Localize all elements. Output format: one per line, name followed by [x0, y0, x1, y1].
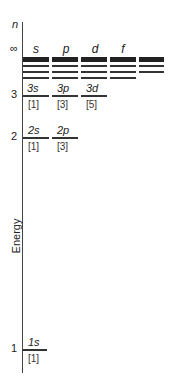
band-f	[110, 57, 136, 62]
degeneracy-1s: [1]	[28, 353, 39, 364]
degeneracy-2s: [1]	[28, 141, 39, 152]
level-line	[110, 65, 136, 67]
level-line-n4-f	[110, 77, 136, 79]
level-line-3p	[52, 95, 78, 97]
degeneracy-3p: [3]	[57, 99, 68, 110]
level-line	[110, 71, 136, 73]
level-line	[81, 71, 107, 73]
level-line	[139, 65, 164, 67]
column-p: p	[55, 42, 77, 56]
orbital-1s-label: 1s	[28, 336, 40, 348]
column-d: d	[84, 42, 106, 56]
energy-axis	[22, 22, 23, 373]
band-d	[81, 57, 107, 62]
level-line-3d	[81, 95, 107, 97]
column-s: s	[25, 42, 47, 56]
tick-n3: 3	[11, 88, 17, 100]
level-line	[52, 65, 78, 67]
band-s	[23, 57, 49, 62]
level-line	[81, 65, 107, 67]
level-line-n4-d	[81, 77, 107, 79]
tick-n2: 2	[11, 130, 17, 142]
band-p	[52, 57, 78, 62]
degeneracy-3s: [1]	[28, 99, 39, 110]
infinity-label: ∞	[10, 42, 18, 54]
orbital-2p-label: 2p	[57, 124, 69, 136]
column-f: f	[112, 42, 134, 56]
n-axis-label: n	[12, 18, 18, 30]
level-line-2p	[52, 137, 78, 139]
level-line-n4-p	[52, 77, 78, 79]
tick-n1: 1	[11, 342, 17, 354]
level-line-1s	[23, 349, 47, 351]
energy-axis-label: Energy	[10, 216, 22, 256]
level-line-n4-s	[23, 77, 49, 79]
level-line	[23, 71, 49, 73]
band-g	[139, 57, 164, 62]
degeneracy-3d: [5]	[86, 99, 97, 110]
orbital-3s-label: 3s	[27, 82, 39, 94]
orbital-3p-label: 3p	[57, 82, 69, 94]
level-line-3s	[23, 95, 49, 97]
orbital-2s-label: 2s	[28, 124, 40, 136]
orbital-3d-label: 3d	[86, 82, 98, 94]
level-line-2s	[23, 137, 49, 139]
level-line	[52, 71, 78, 73]
degeneracy-2p: [3]	[57, 141, 68, 152]
level-line	[139, 71, 164, 73]
level-line	[23, 65, 49, 67]
